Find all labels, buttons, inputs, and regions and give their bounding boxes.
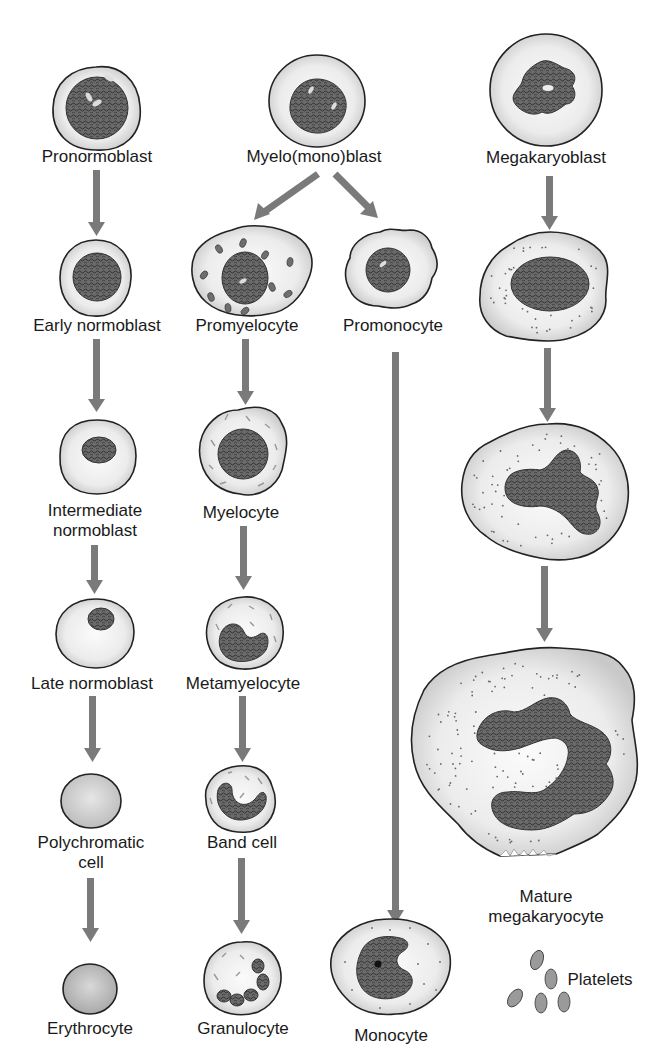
label-polychromatic-line2: cell: [78, 853, 104, 872]
label-pronormoblast: Pronormoblast: [42, 147, 153, 166]
nucleus: [66, 77, 128, 139]
granule-dot: [437, 749, 439, 751]
granule-dot: [545, 786, 547, 788]
label-platelets: Platelets: [567, 970, 632, 989]
stage-granulocyte: Granulocyte: [197, 942, 289, 1038]
label-megakaryoblast: Megakaryoblast: [486, 148, 606, 167]
granule-dot: [522, 665, 524, 667]
arrow: [237, 339, 254, 405]
granule-dot: [471, 760, 473, 762]
granule-dot: [595, 268, 597, 270]
granule-dot: [502, 540, 504, 542]
stage-band-cell: Band cell: [206, 766, 277, 852]
arrow: [233, 858, 250, 934]
hematopoiesis-diagram: Pronormoblast Early normoblast Intermedi…: [0, 0, 669, 1054]
granule-dot: [471, 695, 473, 697]
stage-intermediate-normoblast: Intermediate normoblast: [48, 420, 143, 540]
granule-dot: [452, 763, 454, 765]
platelets: Platelets: [504, 949, 632, 1013]
granule-dot: [495, 837, 497, 839]
granule-dot: [517, 460, 519, 462]
granule-dot: [495, 491, 497, 493]
label-intermediate-normoblast-line1: Intermediate: [48, 501, 143, 520]
granule-dot: [501, 677, 503, 679]
granule-dot: [488, 833, 490, 835]
granule-dot: [591, 307, 593, 309]
granule-dot: [457, 733, 459, 735]
granule-dot: [491, 275, 493, 277]
nucleus: [511, 257, 589, 311]
granule-dot: [549, 329, 551, 331]
granule-dot: [518, 753, 520, 755]
granule-dot: [509, 467, 511, 469]
granule-dot: [437, 789, 439, 791]
granule-dot: [482, 492, 484, 494]
granule-dot: [577, 675, 579, 677]
granule-dot: [527, 756, 529, 758]
granule-dot: [520, 771, 522, 773]
stage-monocyte: Monocyte: [331, 919, 451, 1045]
granule-dot: [536, 327, 538, 329]
granule-dot: [591, 311, 593, 313]
label-late-normoblast: Late normoblast: [31, 674, 153, 693]
granule-dot: [595, 468, 597, 470]
label-myelocyte: Myelocyte: [203, 503, 280, 522]
granule-dot: [623, 753, 625, 755]
granule-dot: [579, 315, 581, 317]
stage-metamyelocyte: Metamyelocyte: [186, 597, 300, 693]
granule-dot: [599, 453, 601, 455]
label-monocyte: Monocyte: [354, 1026, 428, 1045]
granule-dot: [520, 545, 522, 547]
stage-megakaryocyte: [462, 424, 629, 560]
granule-dot: [595, 530, 597, 532]
granule-dot: [560, 442, 562, 444]
granule-dot: [574, 445, 576, 447]
granule-dot: [617, 734, 619, 736]
granule-dot: [511, 675, 513, 677]
granule-dot: [551, 542, 553, 544]
label-metamyelocyte: Metamyelocyte: [186, 674, 300, 693]
granule-dot: [549, 781, 551, 783]
granule-dot: [473, 474, 475, 476]
granule-dot: [541, 247, 543, 249]
granule-dot: [622, 738, 624, 740]
granule-dot: [455, 712, 457, 714]
label-mature-megakaryocyte-line1: Mature: [520, 887, 573, 906]
granule-dot: [482, 460, 484, 462]
granule-dot: [532, 687, 534, 689]
stage-myelocyte: Myelocyte: [200, 407, 287, 522]
granule-dot: [507, 776, 509, 778]
granule-dot: [539, 752, 541, 754]
granule-dot: [495, 766, 497, 768]
stage-promyelocyte: Promyelocyte: [192, 226, 312, 335]
granule-dot: [497, 840, 499, 842]
granule-dot: [545, 246, 547, 248]
granule-dot: [590, 265, 592, 267]
granule-dot: [552, 538, 554, 540]
arrow: [235, 526, 252, 590]
arrow: [88, 339, 105, 412]
granule-dot: [586, 528, 588, 530]
granule-dot: [492, 787, 494, 789]
granule-dot: [459, 763, 461, 765]
label-promyelocyte: Promyelocyte: [196, 316, 299, 335]
granule-dot: [491, 530, 493, 532]
granule-dot: [493, 302, 495, 304]
granule-dot: [448, 711, 450, 713]
granule-dot: [440, 763, 442, 765]
granule-dot: [503, 668, 505, 670]
granule-dot: [571, 671, 573, 673]
granule-dot: [615, 730, 617, 732]
granule-dot: [501, 516, 503, 518]
granule-dot: [578, 674, 580, 676]
granule-dot: [460, 682, 462, 684]
granule-dot: [546, 330, 548, 332]
granule-dot: [538, 449, 540, 451]
granule-dot: [471, 691, 473, 693]
granule-dot: [550, 315, 552, 317]
granule-dot: [571, 320, 573, 322]
granule-dot: [426, 764, 428, 766]
granule-dot: [507, 540, 509, 542]
granule-dot: [505, 289, 507, 291]
granule-dot: [556, 674, 558, 676]
